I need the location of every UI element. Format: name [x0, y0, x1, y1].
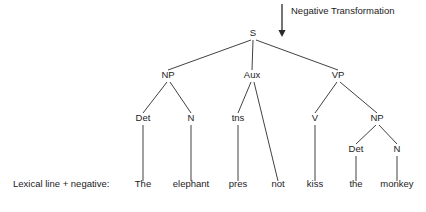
tree-node-vp: VP: [332, 69, 345, 80]
branch-NP2-to-N2: [379, 125, 397, 144]
tree-node-det2: Det: [349, 143, 364, 154]
branch-Aux-to-not: [254, 82, 278, 181]
tree-canvas: SNPAuxVPDetNtnsVNPDetN Theelephantpresno…: [0, 0, 426, 212]
branch-line-layer: [143, 40, 397, 181]
negative-transformation-label: Negative Transformation: [291, 5, 395, 16]
lexical-word-pres: pres: [229, 178, 248, 189]
tree-node-s: S: [250, 27, 256, 38]
branch-S-to-Aux: [252, 40, 253, 70]
lexical-word-monkey: monkey: [380, 178, 414, 189]
branch-NP1-to-N1: [170, 82, 191, 113]
lexical-word-not: not: [271, 178, 285, 189]
tree-node-np1: NP: [161, 69, 174, 80]
arrow-head-icon: [278, 30, 285, 37]
tree-node-n2: N: [394, 143, 401, 154]
branch-S-to-VP: [256, 40, 338, 70]
branch-VP-to-V: [315, 82, 337, 113]
branch-Aux-to-tns: [238, 82, 251, 113]
lexical-word-kiss: kiss: [307, 178, 324, 189]
lexical-word-elephant: elephant: [173, 178, 210, 189]
tree-node-aux: Aux: [244, 69, 261, 80]
branch-NP2-to-Det2: [356, 125, 376, 144]
syntax-tree-diagram: SNPAuxVPDetNtnsVNPDetN Theelephantpresno…: [0, 0, 426, 212]
negative-transformation-annotation: Negative Transformation: [278, 4, 394, 37]
tree-node-np2: NP: [370, 112, 383, 123]
leaf-word-layer: Theelephantpresnotkissthemonkey: [135, 178, 414, 189]
tree-node-det1: Det: [136, 112, 151, 123]
lexical-line-caption: Lexical line + negative:: [13, 178, 109, 189]
lexical-word-the: The: [135, 178, 151, 189]
branch-NP1-to-Det1: [143, 82, 167, 113]
branch-VP-to-NP2: [340, 82, 377, 113]
lexical-word-the: the: [349, 178, 362, 189]
tree-node-n1: N: [188, 112, 195, 123]
tree-node-v: V: [312, 112, 319, 123]
branch-S-to-NP1: [168, 40, 251, 70]
tree-node-tns: tns: [232, 112, 245, 123]
